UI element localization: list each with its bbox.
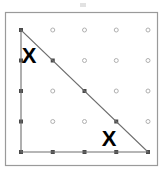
right-triangle (21, 30, 148, 152)
lattice-dot-free (114, 59, 118, 63)
lattice-dot-free (51, 28, 55, 32)
x-mark-upper-left: X (22, 43, 37, 68)
lattice-dot-free (83, 120, 87, 124)
lattice-dot-free (114, 89, 118, 93)
lattice-dot-free (146, 28, 150, 32)
top-smudge-mark (80, 3, 86, 7)
lattice-dot-free (146, 59, 150, 63)
lattice-dot-free (51, 89, 55, 93)
lattice-dot-free (146, 89, 150, 93)
lattice-dot-free (114, 28, 118, 32)
figure-canvas: XX (0, 0, 164, 174)
lattice-dot-free (51, 120, 55, 124)
lattice-triangle-figure: XX (0, 0, 164, 174)
lattice-dot-free (83, 28, 87, 32)
lattice-dot-free (83, 59, 87, 63)
x-mark-lower-right: X (102, 126, 117, 151)
outer-frame-border (6, 13, 158, 166)
lattice-dot-free (146, 120, 150, 124)
